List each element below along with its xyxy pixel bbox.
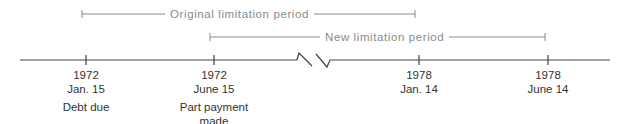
- event-year: 1972: [63, 68, 110, 82]
- event-part-payment: 1972 June 15 Part payment made: [180, 68, 248, 124]
- event-date: June 15: [180, 82, 248, 96]
- event-year: 1978: [528, 68, 569, 82]
- event-original-expiry: 1978 Jan. 14: [400, 68, 438, 96]
- original-period-label: Original limitation period: [165, 7, 314, 21]
- event-note-line1: Part payment: [180, 100, 248, 114]
- event-date: Jan. 15: [63, 82, 110, 96]
- event-date: June 14: [528, 82, 569, 96]
- event-year: 1972: [180, 68, 248, 82]
- event-new-expiry: 1978 June 14: [528, 68, 569, 96]
- event-note-line2: made: [180, 114, 248, 124]
- event-debt-due: 1972 Jan. 15 Debt due: [63, 68, 110, 114]
- new-period-label: New limitation period: [320, 30, 449, 44]
- event-note: Debt due: [63, 100, 110, 114]
- event-date: Jan. 14: [400, 82, 438, 96]
- event-year: 1978: [400, 68, 438, 82]
- timeline-axis: [20, 53, 610, 67]
